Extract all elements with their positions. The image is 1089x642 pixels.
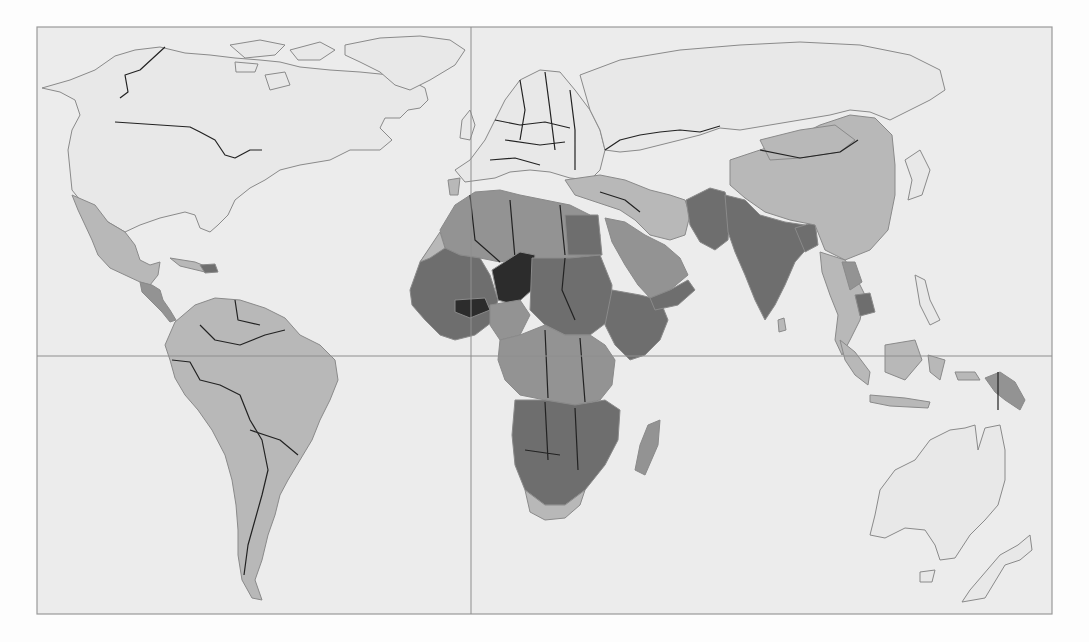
region-tasmania [920, 570, 935, 582]
world-choropleth-map [0, 0, 1089, 642]
region-sudan [530, 255, 612, 335]
region-portugal [448, 178, 460, 195]
region-sri-lanka [778, 318, 786, 332]
region-egypt [565, 215, 602, 255]
